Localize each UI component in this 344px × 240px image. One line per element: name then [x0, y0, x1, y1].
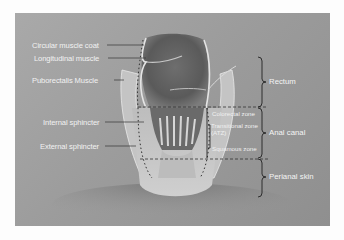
- label-internal-sphincter: Internal sphincter: [43, 118, 99, 127]
- label-rectum: Rectum: [269, 77, 296, 86]
- brace-anal-canal: [258, 108, 266, 158]
- label-circular-muscle-coat: Circular muscle coat: [32, 41, 99, 50]
- label-anal-canal: Anal canal: [269, 128, 305, 137]
- label-perianal-skin: Perianal skin: [269, 172, 314, 181]
- label-longitudinal-muscle: Longitudinal muscle: [34, 54, 99, 63]
- label-puborectalis-muscle: Puborectalis Muscle: [32, 76, 98, 85]
- rectum-lumen: [141, 34, 208, 108]
- label-colorectal-zone: Colorectal zone: [212, 110, 255, 117]
- label-transitional-zone-line1: Transitional zone: [211, 122, 258, 129]
- label-transitional-zone: Transitional zone (ATZ): [211, 122, 258, 136]
- label-external-sphincter: External sphincter: [40, 142, 99, 151]
- brace-rectum: [258, 57, 266, 107]
- label-transitional-zone-line2: (ATZ): [211, 129, 258, 136]
- label-squamous-zone: Squamous zone: [212, 145, 257, 152]
